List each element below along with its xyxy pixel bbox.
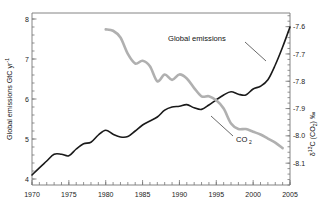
y2-axis-title: δ13C (CO2) ‰ bbox=[307, 112, 318, 156]
right-tick-label: -7.6 bbox=[293, 23, 305, 30]
y-axis-title: Global emissions GtC yr-1 bbox=[4, 58, 14, 140]
right-axis-tick-labels: -8.1-8.0-7.9-7.8-7.7-7.6 bbox=[293, 23, 305, 167]
x-tick-label: 2005 bbox=[282, 191, 298, 198]
right-tick-label: -8.0 bbox=[293, 132, 305, 139]
plot-frame bbox=[32, 13, 290, 185]
left-tick-label: 6 bbox=[25, 96, 29, 103]
left-axis-ticks bbox=[32, 19, 37, 179]
x-tick-label: 1970 bbox=[24, 191, 40, 198]
svg-text:Global emissions GtC yr-1: Global emissions GtC yr-1 bbox=[4, 58, 14, 140]
svg-text:δ13C (CO2) ‰: δ13C (CO2) ‰ bbox=[307, 112, 318, 156]
right-tick-label: -7.8 bbox=[293, 78, 305, 85]
series-line-global-emissions bbox=[32, 27, 290, 175]
series-layer bbox=[32, 27, 290, 175]
x-tick-label: 1985 bbox=[135, 191, 151, 198]
global-emissions-label: Global emissions bbox=[168, 34, 226, 43]
svg-text:CO: CO bbox=[236, 135, 247, 144]
right-tick-label: -7.7 bbox=[293, 51, 305, 58]
left-tick-label: 7 bbox=[25, 56, 29, 63]
y-axis-title-exponent: -1 bbox=[4, 58, 10, 63]
x-axis-ticks bbox=[32, 180, 290, 185]
annotation-leaders bbox=[211, 42, 266, 136]
co2-label: CO 2 bbox=[236, 135, 252, 145]
global-emissions-leader bbox=[245, 42, 266, 61]
series-line-co2 bbox=[106, 29, 283, 148]
x-tick-label: 1975 bbox=[61, 191, 77, 198]
right-tick-label: -7.9 bbox=[293, 105, 305, 112]
x-tick-label: 1990 bbox=[172, 191, 188, 198]
left-axis-tick-labels: 45678 bbox=[25, 16, 29, 183]
svg-text:2: 2 bbox=[249, 139, 252, 145]
x-tick-label: 1995 bbox=[208, 191, 224, 198]
x-tick-label: 2000 bbox=[245, 191, 261, 198]
x-axis-tick-labels: 19701975198019851990199520002005 bbox=[24, 191, 298, 198]
y2-rest: C (CO bbox=[308, 126, 317, 147]
emissions-isotope-chart: 45678 -8.1-8.0-7.9-7.8-7.7-7.6 197019751… bbox=[0, 0, 327, 212]
x-tick-label: 1980 bbox=[98, 191, 114, 198]
right-tick-label: -8.1 bbox=[293, 160, 305, 167]
y-axis-title-text: Global emissions GtC yr bbox=[5, 62, 14, 140]
left-tick-label: 5 bbox=[25, 136, 29, 143]
y2-tail: ) ‰ bbox=[308, 112, 317, 124]
chart-svg: 45678 -8.1-8.0-7.9-7.8-7.7-7.6 197019751… bbox=[0, 0, 327, 212]
right-axis-ticks bbox=[286, 16, 291, 185]
left-tick-label: 4 bbox=[25, 176, 29, 183]
left-tick-label: 8 bbox=[25, 16, 29, 23]
